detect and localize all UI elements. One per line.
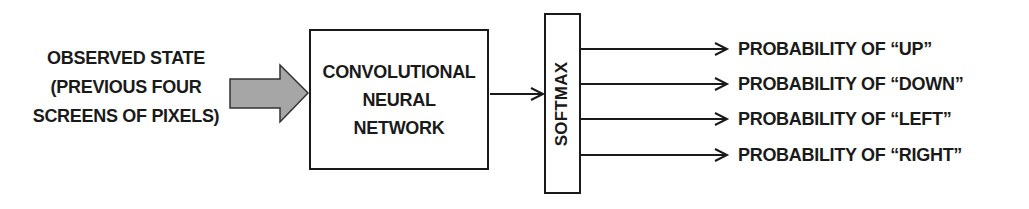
output-arrow-left-icon	[581, 113, 727, 125]
output-label-up: PROBABILITY OF “UP”	[738, 38, 932, 60]
observed-state-label: OBSERVED STATE (PREVIOUS FOUR SCREENS OF…	[20, 44, 232, 131]
cnn-line-3: NETWORK	[322, 114, 475, 142]
softmax-block: SOFTMAX	[544, 13, 581, 194]
cnn-block: CONVOLUTIONAL NEURAL NETWORK	[309, 29, 489, 170]
output-label-right: PROBABILITY OF “RIGHT”	[738, 144, 962, 166]
cnn-line-1: CONVOLUTIONAL	[322, 58, 475, 86]
input-line-3: SCREENS OF PIXELS)	[20, 102, 232, 131]
output-label-down: PROBABILITY OF “DOWN”	[738, 73, 963, 95]
cnn-label: CONVOLUTIONAL NEURAL NETWORK	[322, 58, 475, 142]
cnn-line-2: NEURAL	[322, 86, 475, 114]
input-line-1: OBSERVED STATE	[20, 44, 232, 73]
softmax-label: SOFTMAX	[553, 61, 573, 146]
output-label-left: PROBABILITY OF “LEFT”	[738, 108, 951, 130]
output-arrow-up-icon	[581, 43, 727, 55]
output-arrow-down-icon	[581, 78, 727, 90]
input-line-2: (PREVIOUS FOUR	[20, 73, 232, 102]
output-arrow-right-icon	[581, 149, 727, 161]
input-arrow-icon	[230, 65, 308, 122]
cnn-to-softmax-arrow-icon	[490, 88, 543, 100]
